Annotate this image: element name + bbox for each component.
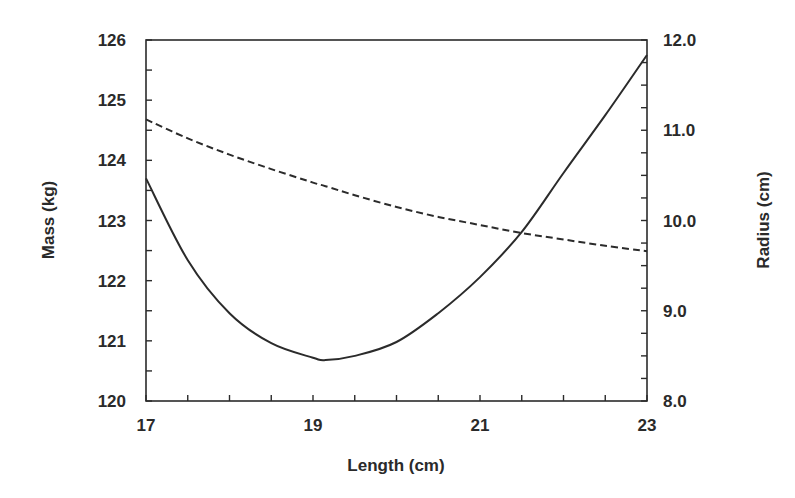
y-axis-right: 8.09.010.011.012.0 — [641, 31, 696, 411]
y-axis-left-title: Mass (kg) — [39, 181, 58, 259]
y2-tick-label: 11.0 — [663, 121, 695, 140]
x-tick-label: 17 — [137, 416, 156, 435]
y-tick-label: 124 — [98, 151, 127, 170]
series-radius-line — [146, 119, 647, 251]
y-axis-right-title: Radius (cm) — [754, 171, 773, 268]
y-tick-label: 120 — [98, 392, 126, 411]
y-tick-label: 122 — [98, 272, 126, 291]
x-axis-title: Length (cm) — [347, 456, 444, 475]
x-tick-label: 23 — [638, 416, 657, 435]
y2-tick-label: 8.0 — [663, 392, 687, 411]
x-tick-label: 19 — [304, 416, 323, 435]
y2-tick-label: 12.0 — [663, 31, 696, 50]
x-tick-label: 21 — [471, 416, 490, 435]
y-axis-left: 120121122123124125126 — [98, 31, 152, 411]
y-tick-label: 126 — [98, 31, 126, 50]
plot-border — [146, 40, 647, 401]
y-tick-label: 125 — [98, 91, 126, 110]
chart: 17192123 120121122123124125126 8.09.010.… — [0, 0, 795, 498]
plot-frame — [146, 40, 647, 401]
series-group — [146, 55, 647, 360]
y2-tick-label: 9.0 — [663, 302, 687, 321]
y-tick-label: 123 — [98, 212, 126, 231]
y2-tick-label: 10.0 — [663, 212, 696, 231]
y-tick-label: 121 — [98, 332, 126, 351]
